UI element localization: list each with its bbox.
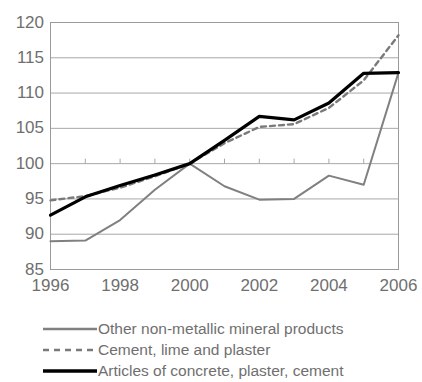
legend-item-label: Articles of concrete, plaster, cement: [98, 363, 344, 379]
x-axis-tick-label: 2000: [162, 276, 218, 296]
legend-item-label: Other non-metallic mineral products: [98, 321, 344, 337]
y-axis-tick-label: 100: [0, 154, 44, 174]
x-axis-tick-label: 1996: [23, 276, 79, 296]
y-axis-tick-label: 120: [0, 13, 44, 33]
gridlines: [51, 58, 399, 234]
y-axis-tick-label: 110: [0, 83, 44, 103]
legend-item[interactable]: Cement, lime and plaster: [42, 339, 410, 360]
legend-item-label: Cement, lime and plaster: [98, 342, 270, 358]
legend-item[interactable]: Articles of concrete, plaster, cement: [42, 360, 410, 381]
legend-item[interactable]: Other non-metallic mineral products: [42, 318, 410, 339]
x-axis-tick-label: 2002: [231, 276, 287, 296]
y-axis-tick-label: 115: [0, 48, 44, 68]
black-solid-line-icon: [42, 365, 98, 377]
series-line: [51, 73, 399, 242]
series-lines: [51, 35, 399, 241]
x-axis-ticks: [51, 159, 399, 164]
y-axis-tick-label: 90: [0, 224, 44, 244]
y-axis-tick-label: 95: [0, 189, 44, 209]
x-axis-tick-label: 2006: [371, 276, 422, 296]
x-axis-tick-label: 2004: [301, 276, 357, 296]
gray-solid-line-icon: [42, 323, 98, 335]
y-axis-tick-label: 105: [0, 118, 44, 138]
x-axis-tick-label: 1998: [92, 276, 148, 296]
series-line: [51, 35, 399, 200]
gray-dashed-line-icon: [42, 344, 98, 356]
plot-frame: [51, 23, 399, 270]
chart-legend: Other non-metallic mineral products Ceme…: [42, 318, 410, 381]
